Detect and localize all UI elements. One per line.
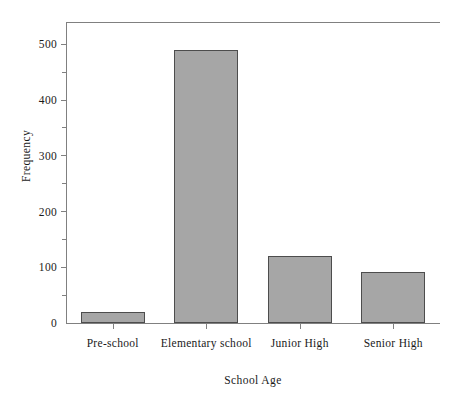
x-tick-mark [113, 324, 114, 329]
y-tick-label: 0 [51, 314, 57, 332]
x-tick-label: Senior High [364, 337, 423, 349]
y-tick-label: 400 [39, 91, 57, 109]
x-axis-ticks [66, 324, 440, 330]
bar-chart: Frequency 0100200300400500 Pre-schoolEle… [0, 0, 460, 411]
y-tick-label: 100 [39, 258, 57, 276]
x-tick-label: Pre-school [87, 337, 139, 349]
y-tick-label: 500 [39, 35, 57, 53]
bar [174, 50, 238, 323]
bar [268, 256, 332, 323]
x-tick-label: Elementary school [161, 337, 252, 349]
bar [81, 312, 145, 323]
x-tick-mark [300, 324, 301, 329]
x-tick-label: Junior High [271, 337, 329, 349]
y-tick-label: 300 [39, 147, 57, 165]
y-axis-title: Frequency [20, 101, 32, 211]
x-tick-mark [206, 324, 207, 329]
bars-layer [66, 22, 440, 323]
y-tick-label: 200 [39, 203, 57, 221]
bar [361, 272, 425, 323]
x-axis-title: School Age [66, 374, 440, 386]
x-tick-mark [393, 324, 394, 329]
x-axis-tick-labels: Pre-schoolElementary schoolJunior HighSe… [0, 337, 460, 357]
